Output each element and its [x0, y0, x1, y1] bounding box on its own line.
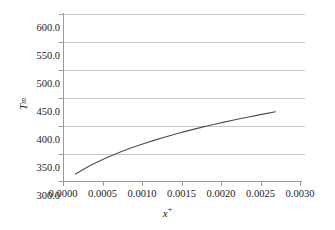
x-tick-label-6: 0.0030 — [270, 188, 330, 199]
y-tick-label-350: 350.0 — [16, 162, 60, 173]
x-tick-mark-2 — [142, 182, 143, 186]
x-tick-mark-3 — [182, 182, 183, 186]
x-tick-mark-4 — [221, 182, 222, 186]
y-tick-label-550: 550.0 — [16, 50, 60, 61]
x-axis-title: x+ — [0, 205, 335, 219]
chart-figure: Tm 300.0 350.0 400.0 450.0 500.0 550.0 6… — [0, 0, 335, 230]
plot-area — [63, 14, 300, 182]
y-axis-tick-labels: 300.0 350.0 400.0 450.0 500.0 550.0 600.… — [10, 0, 60, 200]
x-axis-title-superscript: + — [168, 205, 173, 214]
y-tick-label-400: 400.0 — [16, 134, 60, 145]
y-tick-label-500: 500.0 — [16, 78, 60, 89]
data-series-line — [63, 14, 300, 182]
x-tick-mark-0 — [63, 182, 64, 186]
y-tick-label-600: 600.0 — [16, 22, 60, 33]
x-tick-mark-6 — [300, 182, 301, 186]
series-polyline — [76, 112, 276, 174]
x-tick-mark-5 — [261, 182, 262, 186]
x-tick-mark-1 — [103, 182, 104, 186]
y-tick-label-450: 450.0 — [16, 106, 60, 117]
